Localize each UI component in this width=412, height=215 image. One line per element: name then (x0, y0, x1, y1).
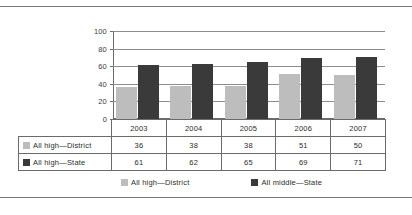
series-swatch-light-icon (23, 142, 30, 149)
legend-item-all-high-district: All high—District (121, 178, 189, 187)
bar-group-2005 (222, 31, 276, 119)
table-cell-district-2004: 38 (166, 137, 221, 154)
bar-all-high-district-2004 (170, 86, 191, 119)
y-tick-label-100: 100 (94, 27, 107, 36)
table-cell-state-2004: 62 (166, 154, 221, 171)
legend-swatch-light-icon (121, 179, 128, 186)
legend-label: All middle—State (261, 178, 322, 187)
y-tick-label-20: 20 (98, 97, 107, 106)
bar-all-high-state-2003 (138, 65, 159, 119)
chart-legend: All high—District All middle—State (113, 178, 385, 187)
cropped-header-text: All high—District All middle—State (14, 0, 314, 4)
legend-swatch-dark-icon (251, 179, 258, 186)
table-row-label-all-high-district: All high—District (19, 137, 112, 154)
chart-figure: 100 80 60 40 20 0 (0, 6, 412, 197)
table-cell-state-2006: 69 (276, 154, 331, 171)
table-header-2003: 2003 (112, 120, 167, 137)
bar-group-2003 (113, 31, 167, 119)
bar-all-high-district-2006 (279, 74, 300, 119)
table-header-2007: 2007 (331, 120, 386, 137)
table-cell-state-2005: 65 (221, 154, 276, 171)
series-swatch-dark-icon (23, 159, 30, 166)
bar-all-high-state-2005 (247, 62, 268, 119)
table-header-2005: 2005 (221, 120, 276, 137)
chart-data-table: 2003 2004 2005 2006 2007 All high—Distri… (18, 119, 386, 171)
table-row-label-text: All high—District (33, 141, 91, 150)
bar-all-high-district-2007 (334, 75, 355, 119)
table-cell-district-2007: 50 (331, 137, 386, 154)
bar-all-high-district-2005 (225, 86, 246, 119)
bar-group-2006 (276, 31, 330, 119)
table-row: All high—State 61 62 65 69 71 (19, 154, 386, 171)
table-row-years: 2003 2004 2005 2006 2007 (19, 120, 386, 137)
plot-area: 100 80 60 40 20 0 (113, 31, 385, 119)
bar-all-high-state-2007 (356, 57, 377, 119)
bar-all-high-state-2006 (301, 58, 322, 119)
bar-group-2007 (331, 31, 385, 119)
table-row-label-text: All high—State (33, 158, 85, 167)
table-header-2004: 2004 (166, 120, 221, 137)
bottom-divider-rule (0, 197, 412, 198)
table-cell-state-2007: 71 (331, 154, 386, 171)
y-tick-label-40: 40 (98, 79, 107, 88)
bar-all-high-district-2003 (116, 87, 137, 119)
table-header-2006: 2006 (276, 120, 331, 137)
bar-all-high-state-2004 (192, 64, 213, 119)
table-cell-district-2005: 38 (221, 137, 276, 154)
y-tick-label-80: 80 (98, 44, 107, 53)
y-tick-label-60: 60 (98, 62, 107, 71)
legend-item-all-middle-state: All middle—State (251, 178, 322, 187)
table-cell-district-2006: 51 (276, 137, 331, 154)
table-corner-cell (19, 120, 112, 137)
table-cell-district-2003: 36 (112, 137, 167, 154)
table-row-label-all-high-state: All high—State (19, 154, 112, 171)
table-row: All high—District 36 38 38 51 50 (19, 137, 386, 154)
bar-group-2004 (167, 31, 221, 119)
legend-label: All high—District (131, 178, 189, 187)
table-cell-state-2003: 61 (112, 154, 167, 171)
